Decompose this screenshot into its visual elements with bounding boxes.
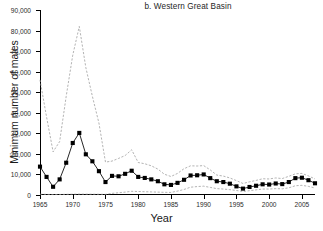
data-point-marker (175, 181, 179, 185)
data-point-marker (45, 175, 49, 179)
x-tick-label: 2005 (295, 201, 310, 208)
chart-figure: b. Western Great Basin Minimum number of… (0, 0, 323, 231)
plot-area: 010,00020,00030,00040,00050,00060,00070,… (40, 10, 315, 195)
data-point-marker (241, 187, 245, 191)
y-tick-label: 60,000 (11, 68, 31, 75)
data-point-marker (64, 161, 68, 165)
data-point-marker (228, 182, 232, 186)
data-point-marker (287, 180, 291, 184)
x-tick (269, 195, 270, 199)
data-point-marker (77, 131, 81, 135)
x-tick-label: 1965 (33, 201, 48, 208)
data-point-marker (280, 182, 284, 186)
x-tick-label: 1990 (196, 201, 211, 208)
y-tick-label: 80,000 (11, 27, 31, 34)
y-tick-label: 30,000 (11, 130, 31, 137)
x-tick-label: 2000 (262, 201, 277, 208)
data-point-marker (313, 181, 317, 185)
data-point-marker (149, 177, 153, 181)
data-point-marker (51, 185, 55, 189)
x-tick (204, 195, 205, 199)
data-point-marker (117, 174, 121, 178)
x-tick (171, 195, 172, 199)
data-point-marker (306, 178, 310, 182)
y-tick-label: 10,000 (11, 171, 31, 178)
x-tick-label: 1985 (164, 201, 179, 208)
x-axis-title: Year (0, 212, 323, 224)
y-tick-label: 70,000 (11, 48, 31, 55)
data-point-marker (71, 141, 75, 145)
y-tick-label: 90,000 (11, 7, 31, 14)
y-tick-label: 40,000 (11, 109, 31, 116)
data-point-marker (300, 176, 304, 180)
x-tick (302, 195, 303, 199)
data-point-marker (215, 179, 219, 183)
data-point-marker (162, 182, 166, 186)
data-point-marker (103, 180, 107, 184)
data-point-marker (123, 172, 127, 176)
y-tick-label: 50,000 (11, 89, 31, 96)
data-point-marker (208, 176, 212, 180)
data-point-marker (84, 152, 88, 156)
confidence-band-line (40, 185, 315, 194)
x-tick (73, 195, 74, 199)
x-tick (236, 195, 237, 199)
data-point-marker (130, 169, 134, 173)
data-point-marker (90, 159, 94, 163)
data-point-marker (136, 175, 140, 179)
data-series-line (40, 133, 315, 189)
data-point-marker (110, 174, 114, 178)
x-tick-label: 1995 (229, 201, 244, 208)
x-tick-label: 1980 (131, 201, 146, 208)
x-tick (138, 195, 139, 199)
y-tick-label: 20,000 (11, 150, 31, 157)
confidence-band-line (40, 26, 315, 183)
data-point-marker (202, 172, 206, 176)
data-point-marker (267, 182, 271, 186)
data-point-marker (182, 178, 186, 182)
data-point-marker (274, 181, 278, 185)
data-point-marker (247, 185, 251, 189)
data-point-marker (221, 180, 225, 184)
data-point-marker (169, 183, 173, 187)
data-point-marker (234, 184, 238, 188)
x-tick (105, 195, 106, 199)
data-point-marker (189, 173, 193, 177)
x-tick-label: 1970 (65, 201, 80, 208)
x-tick (40, 195, 41, 199)
data-point-marker (58, 177, 62, 181)
data-point-marker (143, 176, 147, 180)
data-point-marker (293, 176, 297, 180)
chart-series-layer (40, 10, 315, 195)
data-point-marker (38, 165, 42, 169)
data-point-marker (97, 169, 101, 173)
data-point-marker (195, 173, 199, 177)
x-tick-label: 1975 (98, 201, 113, 208)
data-point-marker (254, 184, 258, 188)
y-tick-label: 0 (27, 192, 31, 199)
data-point-marker (261, 182, 265, 186)
data-point-marker (156, 179, 160, 183)
